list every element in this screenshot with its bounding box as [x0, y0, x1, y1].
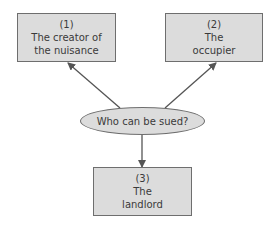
- node-label-line2: occupier: [193, 44, 236, 57]
- node-label-line1: The: [133, 185, 152, 198]
- node-label-line1: The: [205, 31, 224, 44]
- diagram-canvas: (1) The creator of the nuisance (2) The …: [0, 0, 277, 229]
- node-landlord: (3) The landlord: [93, 167, 192, 216]
- node-label-line2: landlord: [122, 198, 163, 211]
- node-number: (3): [135, 172, 149, 185]
- node-number: (1): [59, 18, 73, 31]
- arrow-to-creator: [68, 63, 120, 108]
- central-question-ellipse: Who can be sued?: [80, 107, 205, 135]
- node-label-line2: the nuisance: [34, 44, 98, 57]
- node-occupier: (2) The occupier: [165, 13, 263, 62]
- node-number: (2): [207, 18, 221, 31]
- node-creator-of-nuisance: (1) The creator of the nuisance: [17, 13, 116, 62]
- node-label-line1: The creator of: [31, 31, 101, 44]
- central-question-label: Who can be sued?: [97, 116, 189, 127]
- arrow-to-occupier: [165, 63, 216, 108]
